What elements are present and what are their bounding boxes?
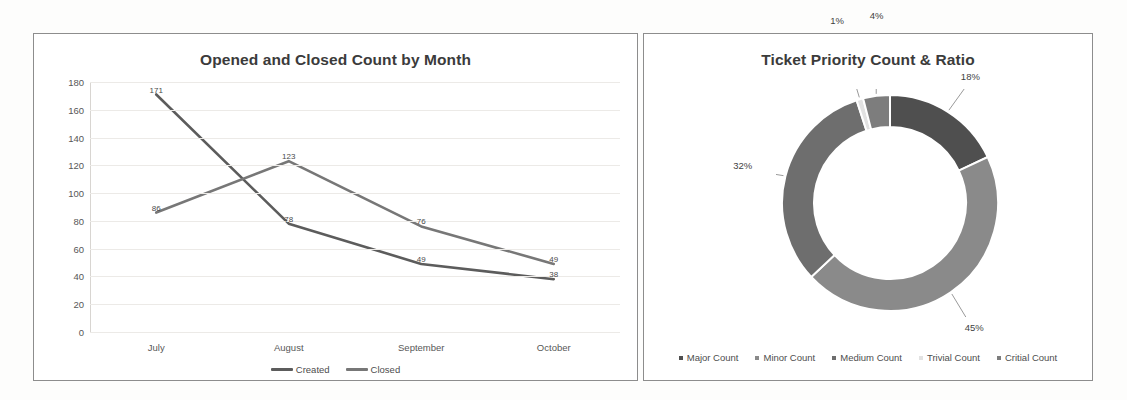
y-axis-tick: 160 <box>50 104 84 115</box>
y-axis-tick-labels: 020406080100120140160180 <box>48 82 84 333</box>
gridline <box>90 221 620 222</box>
legend-label: Medium Count <box>840 352 902 363</box>
legend-label: Created <box>296 364 330 375</box>
donut-percent-labels: 18%45%32%1%4% <box>776 89 1004 317</box>
donut-percent-label: 1% <box>830 14 844 25</box>
legend-item[interactable]: Trivial Count <box>919 352 980 363</box>
y-axis-tick: 120 <box>50 160 84 171</box>
gridline <box>90 193 620 194</box>
legend-label: Trivial Count <box>927 352 980 363</box>
gridline <box>90 82 620 83</box>
line-chart-panel: Opened and Closed Count by Month 0204060… <box>33 33 638 381</box>
legend-swatch-icon <box>755 356 759 360</box>
x-axis-tick: October <box>537 342 571 353</box>
y-axis-tick: 80 <box>50 215 84 226</box>
legend-item[interactable]: Minor Count <box>755 352 815 363</box>
line-chart-legend: CreatedClosed <box>34 364 637 375</box>
data-point-label: 171 <box>150 85 163 94</box>
line-series-svg <box>90 82 620 332</box>
line-series <box>156 95 554 280</box>
legend-swatch-icon <box>271 368 293 371</box>
legend-swatch-icon <box>997 356 1001 360</box>
y-axis-tick: 180 <box>50 77 84 88</box>
donut-chart-panel: Ticket Priority Count & Ratio 18%45%32%1… <box>643 33 1093 381</box>
gridline <box>90 138 620 139</box>
x-axis-tick: July <box>148 342 165 353</box>
donut-chart-graphic: 18%45%32%1%4% <box>776 89 1004 317</box>
donut-percent-label: 32% <box>733 160 752 171</box>
donut-percent-label: 18% <box>961 71 980 82</box>
legend-swatch-icon <box>679 356 683 360</box>
data-point-label: 38 <box>549 270 558 279</box>
donut-chart-title: Ticket Priority Count & Ratio <box>644 51 1092 69</box>
gridline <box>90 165 620 166</box>
legend-swatch-icon <box>346 368 368 371</box>
legend-item[interactable]: Critial Count <box>997 352 1057 363</box>
legend-swatch-icon <box>832 356 836 360</box>
y-axis-tick: 40 <box>50 271 84 282</box>
gridline <box>90 110 620 111</box>
legend-label: Closed <box>371 364 401 375</box>
y-axis-tick: 0 <box>50 327 84 338</box>
data-point-label: 123 <box>282 152 295 161</box>
donut-chart-legend: Major CountMinor CountMedium CountTrivia… <box>644 352 1092 363</box>
line-chart-title: Opened and Closed Count by Month <box>34 51 637 69</box>
legend-label: Minor Count <box>763 352 815 363</box>
legend-label: Critial Count <box>1005 352 1057 363</box>
x-axis-tick: August <box>274 342 304 353</box>
y-axis-tick: 140 <box>50 132 84 143</box>
y-axis-tick: 20 <box>50 299 84 310</box>
gridline <box>90 249 620 250</box>
legend-label: Major Count <box>687 352 739 363</box>
data-point-label: 49 <box>417 254 426 263</box>
y-axis-tick: 60 <box>50 243 84 254</box>
donut-percent-label: 45% <box>965 322 984 333</box>
x-axis-tick-labels: JulyAugustSeptemberOctober <box>90 342 620 358</box>
data-point-label: 76 <box>417 217 426 226</box>
legend-item[interactable]: Created <box>271 364 330 375</box>
y-axis-tick: 100 <box>50 188 84 199</box>
line-chart-plot-area <box>90 82 620 332</box>
gridline <box>90 276 620 277</box>
legend-item[interactable]: Major Count <box>679 352 739 363</box>
legend-swatch-icon <box>919 356 923 360</box>
data-point-label: 78 <box>284 214 293 223</box>
gridline <box>90 304 620 305</box>
data-point-label: 49 <box>549 254 558 263</box>
legend-item[interactable]: Closed <box>346 364 401 375</box>
gridline <box>90 332 620 333</box>
x-axis-tick: September <box>398 342 444 353</box>
data-point-label: 86 <box>152 203 161 212</box>
legend-item[interactable]: Medium Count <box>832 352 902 363</box>
donut-percent-label: 4% <box>870 10 884 21</box>
